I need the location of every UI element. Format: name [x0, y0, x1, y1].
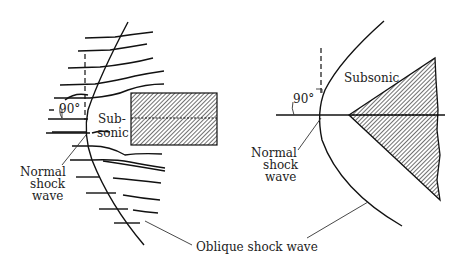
left-subsonic-label-1: Sub-	[98, 112, 126, 126]
right-normal-leader	[298, 118, 321, 150]
left-angle-label: 90°	[59, 102, 80, 116]
right-subsonic-label: Subsonic	[344, 71, 400, 85]
right-angle-label: 90°	[293, 92, 314, 106]
blunt-body	[131, 93, 217, 145]
left-subsonic-label-2: sonic	[97, 126, 129, 140]
left-oblique-leader	[145, 221, 192, 245]
shock-wave-diagram: 90° Sub- sonic Normal shock wave 90° Sub…	[0, 0, 459, 269]
left-normal-label-3: wave	[32, 189, 63, 203]
right-oblique-leader	[307, 202, 368, 238]
right-panel: 90° Subsonic Normal shock wave	[251, 21, 445, 238]
oblique-shock-label: Oblique shock wave	[196, 240, 318, 254]
right-normal-label-3: wave	[265, 170, 296, 184]
left-panel: 90° Sub- sonic Normal shock wave	[20, 22, 217, 245]
streamlines-upper	[54, 32, 164, 100]
streamlines-lower	[52, 132, 165, 223]
